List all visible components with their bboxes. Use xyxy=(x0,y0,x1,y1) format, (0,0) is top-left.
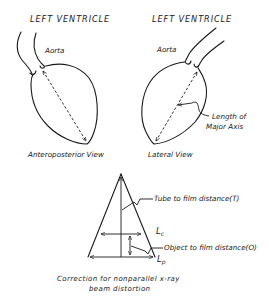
lateral-axis-arrow xyxy=(156,72,197,141)
beam-left-edge xyxy=(88,174,121,257)
object-to-film-label: Object to film distance(O) xyxy=(164,243,257,252)
lateral-panel: LEFT VENTRICLE Aorta Length of Major Axi… xyxy=(142,14,248,159)
anteroposterior-panel: LEFT VENTRICLE Aorta Anteroposterior Vie… xyxy=(17,14,110,159)
tube-leader xyxy=(122,199,153,210)
tube-to-film-label: Tube to film distance(T) xyxy=(154,194,240,203)
object-leader xyxy=(131,246,163,254)
lateral-title: LEFT VENTRICLE xyxy=(152,14,232,24)
lc-label: Lc xyxy=(156,226,165,237)
lateral-aorta-label: Aorta xyxy=(156,45,177,54)
major-axis-label-line1: Length of xyxy=(212,112,248,121)
lp-label: Lp xyxy=(157,254,166,266)
anteroposterior-aorta-label: Aorta xyxy=(44,46,65,55)
correction-diagram: Tube to film distance(T) Lc Object to fi… xyxy=(57,174,257,293)
anteroposterior-axis-arrow xyxy=(43,71,86,141)
diagram-canvas: LEFT VENTRICLE Aorta Anteroposterior Vie… xyxy=(0,0,269,301)
anteroposterior-view-label: Anteroposterior View xyxy=(27,150,104,159)
caption-line-1: Correction for nonparallel x-ray xyxy=(57,275,180,283)
caption-line-2: beam distortion xyxy=(89,285,150,293)
beam-right-edge xyxy=(121,174,155,257)
major-axis-label-line2: Major Axis xyxy=(206,122,243,131)
anteroposterior-title: LEFT VENTRICLE xyxy=(30,14,110,24)
lateral-view-label: Lateral View xyxy=(148,150,193,159)
